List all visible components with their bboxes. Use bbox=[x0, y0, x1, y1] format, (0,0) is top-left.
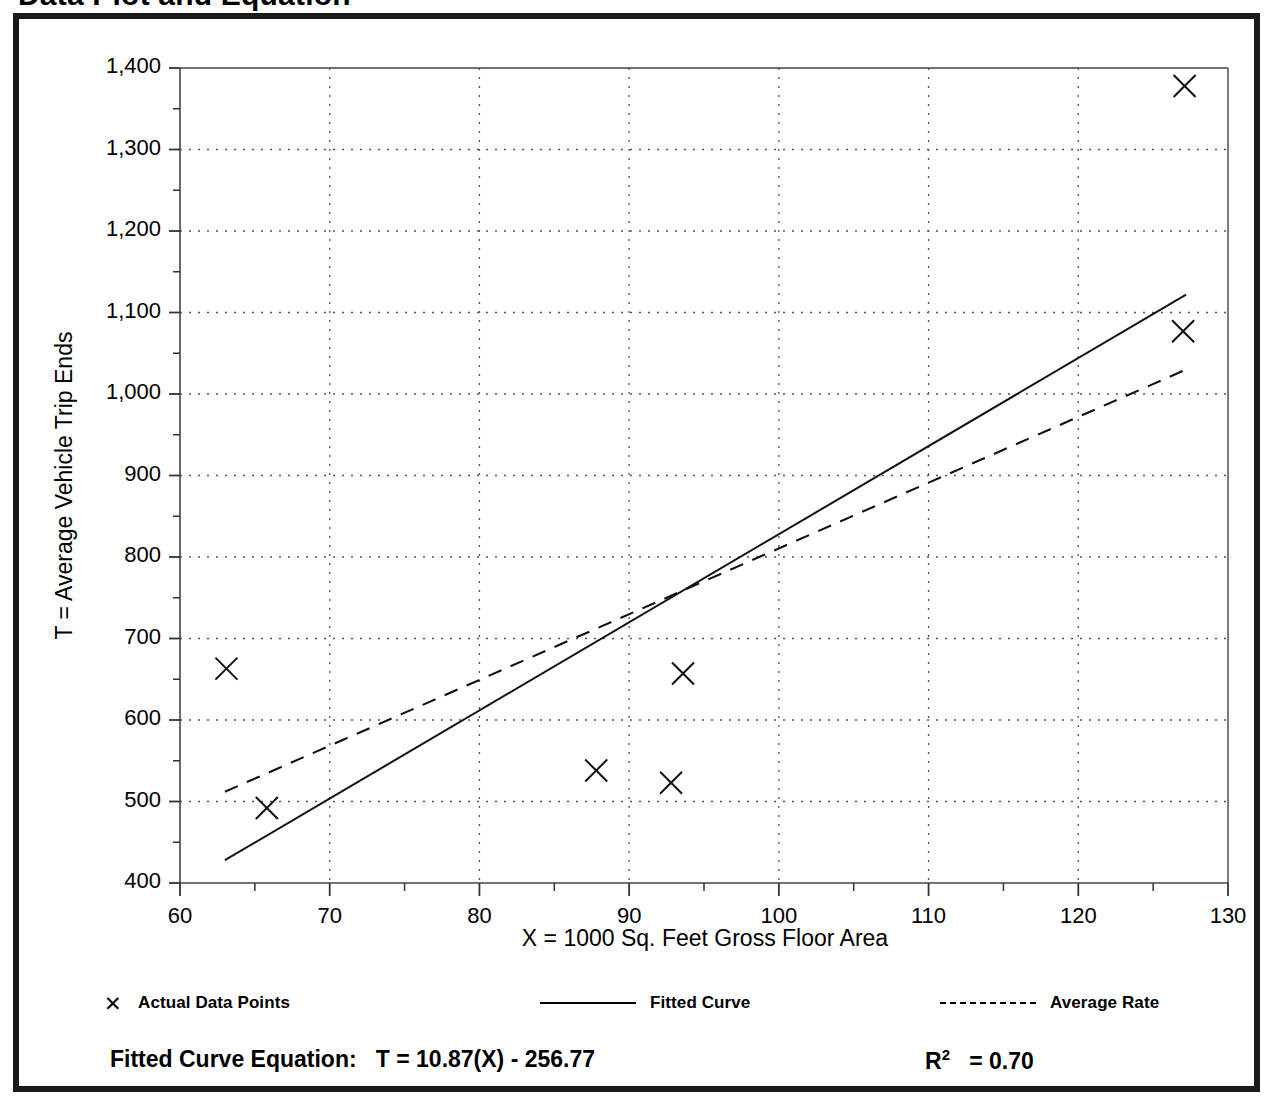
r-symbol: R bbox=[925, 1048, 942, 1074]
r-exponent: 2 bbox=[942, 1046, 950, 1063]
y-tick-label: 400 bbox=[81, 868, 161, 894]
chart-legend: ✕ Actual Data Points Fitted Curve Averag… bbox=[100, 988, 1210, 1018]
y-tick-label: 1,100 bbox=[81, 298, 161, 324]
x-marker-icon: ✕ bbox=[100, 993, 126, 1014]
legend-item-fitted-curve: Fitted Curve bbox=[540, 988, 750, 1018]
r-squared-value: R2 = 0.70 bbox=[925, 1046, 1034, 1075]
y-tick-label: 1,200 bbox=[81, 216, 161, 242]
equation-row: Fitted Curve Equation: T = 10.87(X) - 25… bbox=[110, 1046, 1170, 1082]
equation-label: Fitted Curve Equation: bbox=[110, 1046, 357, 1072]
y-axis-title: T = Average Vehicle Trip Ends bbox=[51, 340, 78, 640]
y-tick-label: 800 bbox=[81, 542, 161, 568]
legend-label-actual: Actual Data Points bbox=[138, 993, 290, 1013]
y-tick-label: 1,000 bbox=[81, 379, 161, 405]
page-title: Data Plot and Equation bbox=[18, 0, 351, 12]
legend-label-average: Average Rate bbox=[1050, 993, 1159, 1013]
dashed-line-icon bbox=[940, 1002, 1036, 1004]
fitted-curve-equation: Fitted Curve Equation: T = 10.87(X) - 25… bbox=[110, 1046, 595, 1073]
y-tick-label: 1,300 bbox=[81, 135, 161, 161]
legend-item-average-rate: Average Rate bbox=[940, 988, 1159, 1018]
solid-line-icon bbox=[540, 1002, 636, 1004]
legend-label-fitted: Fitted Curve bbox=[650, 993, 750, 1013]
legend-item-actual-data-points: ✕ Actual Data Points bbox=[100, 988, 290, 1018]
equation-value: T = 10.87(X) - 256.77 bbox=[376, 1046, 595, 1072]
y-tick-label: 600 bbox=[81, 705, 161, 731]
y-tick-label: 500 bbox=[81, 787, 161, 813]
y-tick-label: 1,400 bbox=[81, 53, 161, 79]
x-axis-title: X = 1000 Sq. Feet Gross Floor Area bbox=[180, 925, 1230, 952]
y-tick-label: 900 bbox=[81, 461, 161, 487]
y-tick-label: 700 bbox=[81, 624, 161, 650]
r-value: = 0.70 bbox=[969, 1048, 1034, 1074]
